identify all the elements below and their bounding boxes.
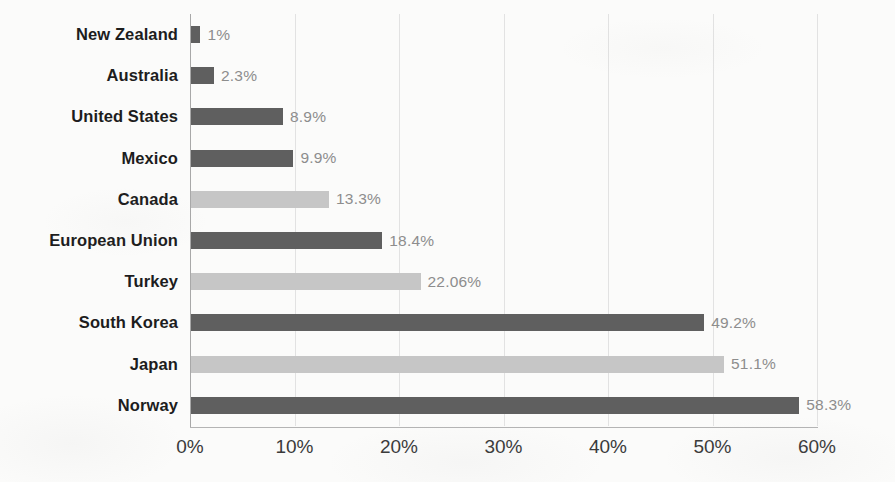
x-tick-40pct: 40% (589, 436, 627, 458)
x-tick-20pct: 20% (380, 436, 418, 458)
x-axis-tick-labels: 0%10%20%30%40%50%60% (190, 436, 817, 466)
category-label-norway: Norway (118, 385, 178, 426)
bar-row: 49.2% (190, 302, 817, 343)
bar-value-label: 18.4% (389, 232, 434, 250)
bar-norway (190, 397, 799, 414)
category-axis-labels: New ZealandAustraliaUnited StatesMexicoC… (0, 14, 178, 426)
bar-value-label: 22.06% (428, 273, 482, 291)
bar-turkey (190, 273, 421, 290)
bar-row: 8.9% (190, 96, 817, 137)
x-tick-10pct: 10% (275, 436, 313, 458)
category-label-united-states: United States (71, 96, 178, 137)
bar-value-label: 51.1% (731, 355, 776, 373)
bar-australia (190, 67, 214, 84)
category-label-canada: Canada (118, 179, 178, 220)
bar-european-union (190, 232, 382, 249)
bar-value-label: 1% (207, 26, 230, 44)
bar-value-label: 8.9% (290, 108, 326, 126)
bar-value-label: 49.2% (711, 314, 756, 332)
x-axis-line (190, 427, 818, 428)
category-label-south-korea: South Korea (79, 302, 178, 343)
category-label-japan: Japan (130, 344, 178, 385)
bar-value-label: 13.3% (336, 190, 381, 208)
category-label-turkey: Turkey (125, 261, 178, 302)
x-tick-0pct: 0% (176, 436, 203, 458)
category-label-mexico: Mexico (121, 138, 178, 179)
bar-row: 13.3% (190, 179, 817, 220)
bar-row: 9.9% (190, 138, 817, 179)
category-label-european-union: European Union (49, 220, 178, 261)
bar-row: 1% (190, 14, 817, 55)
bar-row: 18.4% (190, 220, 817, 261)
bar-new-zealand (190, 26, 200, 43)
bar-mexico (190, 150, 293, 167)
bar-row: 2.3% (190, 55, 817, 96)
bar-south-korea (190, 314, 704, 331)
x-tick-30pct: 30% (484, 436, 522, 458)
bar-japan (190, 356, 724, 373)
bar-value-label: 58.3% (806, 396, 851, 414)
bar-chart: New ZealandAustraliaUnited StatesMexicoC… (0, 0, 895, 482)
bars-layer: 1%2.3%8.9%9.9%13.3%18.4%22.06%49.2%51.1%… (190, 14, 817, 426)
bar-row: 51.1% (190, 344, 817, 385)
bar-canada (190, 191, 329, 208)
x-tick-60pct: 60% (798, 436, 836, 458)
bar-united-states (190, 108, 283, 125)
category-label-new-zealand: New Zealand (76, 14, 178, 55)
bar-row: 58.3% (190, 385, 817, 426)
category-label-australia: Australia (106, 55, 178, 96)
bar-value-label: 2.3% (221, 67, 257, 85)
y-axis-line (190, 14, 191, 427)
bar-row: 22.06% (190, 261, 817, 302)
bar-value-label: 9.9% (300, 149, 336, 167)
gridline-60pct (817, 14, 818, 426)
x-tick-50pct: 50% (693, 436, 731, 458)
